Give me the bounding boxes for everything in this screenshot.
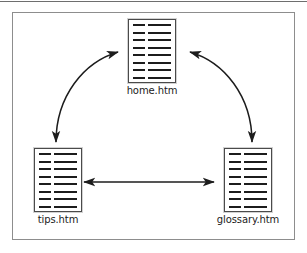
doc-line-row <box>39 161 77 163</box>
doc-line-row <box>229 191 267 193</box>
node-tips[interactable]: tips.htm <box>26 148 90 226</box>
doc-line-row <box>229 168 267 170</box>
doc-line-row <box>133 54 171 56</box>
document-page-icon <box>224 148 272 212</box>
node-home[interactable]: home.htm <box>120 19 184 97</box>
doc-line-row <box>229 183 267 185</box>
doc-line-row <box>39 176 77 178</box>
node-label-tips: tips.htm <box>26 214 90 226</box>
doc-line-row <box>229 176 267 178</box>
node-label-home: home.htm <box>120 85 184 97</box>
doc-line-row <box>39 183 77 185</box>
doc-line-row <box>229 153 267 155</box>
document-page-icon <box>34 148 82 212</box>
doc-line-row <box>39 153 77 155</box>
doc-line-row <box>133 39 171 41</box>
doc-line-row <box>133 24 171 26</box>
node-glossary[interactable]: glossary.htm <box>216 148 280 226</box>
doc-line-row <box>133 69 171 71</box>
doc-line-row <box>229 198 267 200</box>
doc-line-row <box>133 62 171 64</box>
node-label-glossary: glossary.htm <box>216 214 280 226</box>
doc-line-row <box>133 47 171 49</box>
doc-line-row <box>133 77 171 79</box>
doc-line-row <box>229 161 267 163</box>
doc-line-row <box>39 191 77 193</box>
doc-line-row <box>39 206 77 208</box>
doc-line-row <box>39 168 77 170</box>
page-top-rule <box>0 1 307 2</box>
doc-line-row <box>39 198 77 200</box>
doc-line-row <box>229 206 267 208</box>
doc-line-row <box>133 32 171 34</box>
diagram-page: home.htm tips.htm glossary.htm <box>0 0 307 253</box>
document-page-icon <box>128 19 176 83</box>
